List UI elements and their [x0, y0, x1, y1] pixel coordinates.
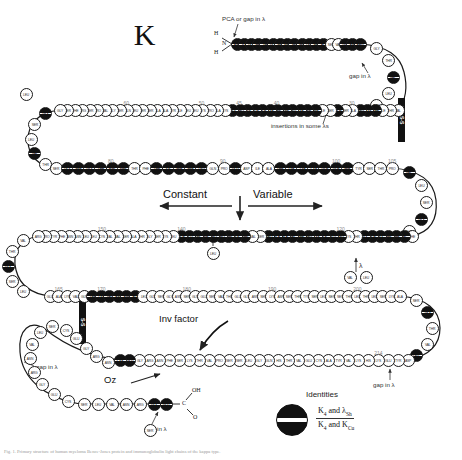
residue-number-label: 105: [388, 158, 396, 164]
residue-number-label: 90: [220, 158, 226, 164]
label-constant: Constant: [163, 188, 207, 200]
alternate-residue-bead: SER: [144, 424, 157, 437]
residue-bead: SER: [46, 320, 59, 333]
annotation-gap-lambda-top: gap in λ: [349, 72, 371, 79]
residue-bead: VAL: [106, 398, 119, 411]
residue-number-label: 180: [183, 286, 191, 292]
residue-bead: GLY: [36, 378, 49, 391]
legend-title: Identities: [306, 390, 338, 399]
residue-bead: GLY: [2, 260, 15, 273]
residue-bead: LEU: [25, 133, 38, 146]
n-terminus-h-bottom: H: [214, 49, 218, 55]
legend-num-a-sub: 4: [324, 411, 327, 417]
legend-den-a-sub: 4: [324, 424, 327, 430]
residue-bead: VAL: [387, 71, 400, 84]
residue-number-label: 80: [108, 158, 114, 164]
alternate-residue-bead: LEU: [360, 271, 373, 284]
residue-bead: GLY: [421, 306, 434, 319]
residue-bead: CYS: [62, 395, 75, 408]
residue-bead: SER: [28, 118, 41, 131]
chain-title: K: [100, 18, 190, 52]
residue-bead: GLY: [80, 342, 93, 355]
residue-bead: SER: [420, 196, 433, 209]
legend-num-b-sub: Sh: [346, 411, 352, 417]
annotation-pca-gap: PCA or gap in λ: [222, 15, 265, 22]
residue-bead: LEU: [382, 87, 395, 100]
residue-bead: LEU: [92, 398, 105, 411]
legend-identity-symbol: [276, 404, 308, 436]
residue-bead: SER: [6, 275, 19, 288]
residue-number-label: 150: [98, 226, 106, 232]
residue-bead: ASN: [24, 352, 37, 365]
annotation-insertions: insertions in some λs: [271, 122, 329, 129]
residue-number-label: 140: [177, 226, 185, 232]
c-terminus-o: O: [193, 414, 197, 420]
lambda-marker-row4: λ: [359, 262, 363, 269]
residue-bead: GLU: [48, 388, 61, 401]
residue-number-label: 214: [374, 350, 382, 356]
legend: Identities K4 and λSh K4 and KCu: [272, 390, 402, 450]
alternate-residue-bead: VAL: [344, 271, 357, 284]
residue-bead: SER: [410, 294, 423, 307]
light-chain-sequence-figure: K: [0, 0, 462, 460]
residue-bead: ALA: [394, 290, 407, 303]
residue-bead: CYS: [114, 354, 127, 367]
residue-bead: ASN: [120, 398, 133, 411]
residue-bead: ARG: [32, 230, 45, 243]
residue-bead: THR: [6, 245, 19, 258]
residue-number-label: 165: [55, 286, 63, 292]
residue-bead: GLY: [415, 213, 428, 226]
annotation-inv-factor: Inv factor: [159, 313, 198, 324]
residue-bead: THR: [382, 54, 395, 67]
annotation-oz: Oz: [104, 374, 116, 385]
legend-num-and: and: [329, 406, 341, 415]
legend-fraction: K4 and λSh K4 and KCu: [316, 406, 356, 430]
figure-caption: Fig. 1. Primary structure of human myelo…: [4, 449, 460, 455]
residue-bead: VAL: [26, 338, 39, 351]
residue-bead: ARG: [28, 366, 41, 379]
residue-bead: VAL: [28, 147, 41, 160]
n-terminus-h-top: H: [214, 30, 218, 36]
residue-bead: LEU: [17, 285, 30, 298]
residue-bead: ARG: [354, 38, 367, 51]
annotation-gap-lambda-right: gap in λ: [373, 381, 395, 388]
residue-bead: GLU: [160, 398, 173, 411]
n-terminus-n: N: [222, 40, 226, 46]
residue-bead: THR: [426, 322, 439, 335]
c-terminus-oh: OH: [192, 387, 201, 393]
residue-bead: CYS: [60, 324, 73, 337]
alternate-residue-bead: LEU: [20, 88, 33, 101]
residue-bead: VAL: [17, 234, 30, 247]
legend-den-b-sub: Cu: [348, 424, 354, 430]
residue-bead: ASN: [102, 356, 115, 369]
residue-bead: SER: [78, 398, 91, 411]
label-variable: Variable: [253, 188, 293, 200]
residue-bead: GLY: [370, 42, 383, 55]
residue-bead: VAL: [421, 338, 434, 351]
c-terminus-c: C: [182, 400, 186, 406]
residue-bead: LEU: [34, 326, 47, 339]
residue-bead: GLY: [148, 398, 161, 411]
residue-bead: GLY: [39, 107, 52, 120]
residue-bead: GLY: [54, 104, 67, 117]
residue-number-label: 100: [332, 158, 340, 164]
legend-den-and: and: [329, 420, 341, 429]
residue-bead: LEU: [415, 179, 428, 192]
residue-bead: VAL: [403, 166, 416, 179]
residue-bead: ARG: [134, 398, 147, 411]
alternate-residue-bead: LEU: [207, 247, 220, 260]
